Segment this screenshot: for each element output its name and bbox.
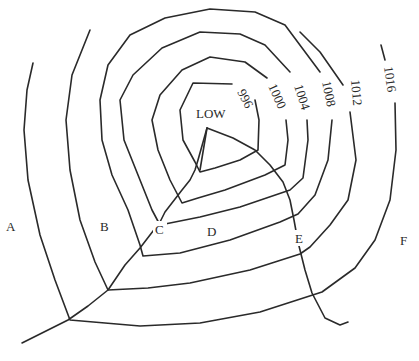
point-a-label: A <box>6 219 16 234</box>
isobar-label-1004: 1004 <box>291 82 313 112</box>
cold-front <box>22 128 207 343</box>
point-b-label: B <box>100 219 109 234</box>
isobar-1000 <box>152 57 288 203</box>
point-c-label: C <box>155 222 164 237</box>
isobar-1016 <box>381 45 385 60</box>
weather-map: 996 1000 1004 1008 1012 1016 LOW A B C D… <box>0 0 419 361</box>
isobar-label-1000: 1000 <box>265 81 289 111</box>
point-d-label: D <box>207 224 216 239</box>
isobar-1008 <box>100 9 332 256</box>
isobar-label-996: 996 <box>234 86 257 111</box>
point-f-label: F <box>400 233 407 248</box>
isobar-label-1008: 1008 <box>319 80 339 109</box>
isobar-label-1012: 1012 <box>348 79 365 106</box>
low-pressure-label: LOW <box>196 106 226 121</box>
point-e-label: E <box>295 231 303 246</box>
isobar-1004 <box>120 32 308 225</box>
isobar-1012 <box>300 32 343 85</box>
isobar-label-1016: 1016 <box>381 65 400 93</box>
isobar-1012-lower <box>66 30 356 290</box>
warm-front <box>207 128 348 325</box>
